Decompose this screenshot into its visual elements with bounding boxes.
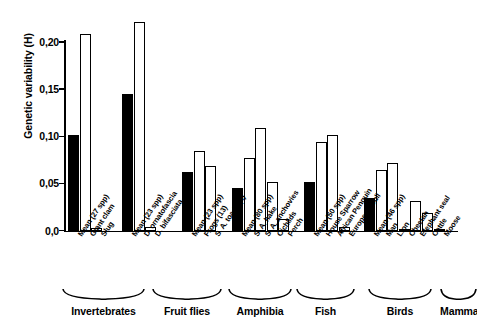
group-label: Birds [368,305,432,317]
group-label: Fruit flies [152,305,222,317]
y-tick-label: 0,10 [19,130,59,142]
bar [80,34,91,230]
group-label: Invertebrates [62,305,145,317]
y-tick-label: 0,20 [19,36,59,48]
group-label: Mammals [440,305,477,317]
group-label: Amphibia [228,305,292,317]
group-brace [296,288,355,304]
group-label: Fish [296,305,355,317]
y-tick-label: 0,05 [19,177,59,189]
bar [68,135,79,230]
y-tick-label: 0,0 [19,225,59,237]
group-brace [440,288,477,304]
bar [134,22,145,230]
group-brace [228,288,292,304]
bar [122,94,133,231]
group-brace [152,288,222,304]
group-brace [368,288,432,304]
group-brace [62,288,145,304]
genetic-variability-chart: Genetic variability (H) 0,00,050,100,150… [0,0,477,335]
bar [304,182,315,231]
y-tick-label: 0,15 [19,83,59,95]
